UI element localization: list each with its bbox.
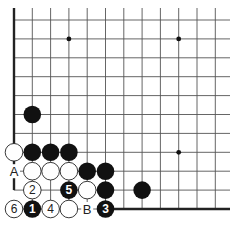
white-stone-icon: [78, 181, 96, 199]
move-number: 3: [102, 202, 109, 216]
black-stone: [133, 181, 151, 199]
black-stone-icon: [97, 162, 115, 180]
black-stone: [78, 162, 96, 180]
black-stone-icon: [42, 144, 60, 162]
black-stone: [42, 144, 60, 162]
move-number: 5: [66, 183, 73, 197]
black-stone-icon: [133, 181, 151, 199]
black-stone: [97, 162, 115, 180]
white-stone-icon: [60, 162, 78, 180]
white-stone: [60, 162, 78, 180]
white-stone: [5, 144, 23, 162]
white-stone-icon: [24, 162, 42, 180]
hoshi-point-icon: [67, 37, 72, 42]
white-stone: 2: [24, 181, 42, 199]
black-stone-icon: [97, 181, 115, 199]
white-stone-icon: [60, 200, 78, 218]
point-mark-a: A: [10, 164, 19, 179]
black-stone: [60, 144, 78, 162]
move-number: 6: [11, 202, 18, 216]
move-number: 2: [29, 183, 36, 197]
white-stone: [78, 181, 96, 199]
white-stone: 6: [5, 200, 23, 218]
black-stone: 1: [24, 200, 42, 218]
white-stone: [42, 162, 60, 180]
black-stone: 5: [60, 181, 78, 199]
black-stone: [97, 181, 115, 199]
black-stone-icon: [24, 106, 42, 124]
black-stone-icon: [78, 162, 96, 180]
white-stone: [24, 162, 42, 180]
white-stone-icon: [5, 144, 23, 162]
black-stone: 3: [97, 200, 115, 218]
black-stone: [24, 106, 42, 124]
black-stone-icon: [24, 144, 42, 162]
stones: 256143: [5, 106, 151, 218]
hoshi-point-icon: [176, 150, 181, 155]
move-number: 1: [29, 202, 36, 216]
hoshi-point-icon: [176, 37, 181, 42]
go-board: 256143 AB: [0, 0, 235, 229]
white-stone: 4: [42, 200, 60, 218]
move-number: 4: [47, 202, 54, 216]
black-stone-icon: [60, 144, 78, 162]
point-mark-b: B: [83, 202, 92, 217]
white-stone: [60, 200, 78, 218]
black-stone: [24, 144, 42, 162]
white-stone-icon: [42, 162, 60, 180]
